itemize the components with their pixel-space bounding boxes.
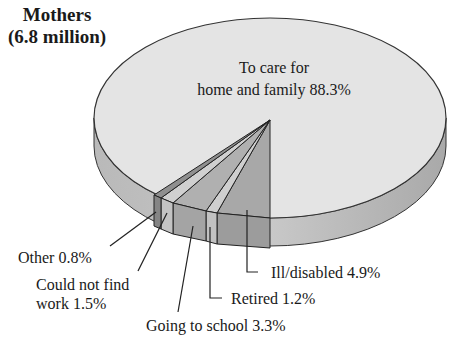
label-going-to-school: Going to school 3.3% [146,316,286,335]
label-retired: Retired 1.2% [231,289,315,308]
leader-school [178,226,193,312]
label-could-not-find-work: Could not find work 1.5% [36,275,129,313]
leader-other [110,212,156,246]
label-home-family: To care for home and family 88.3% [150,57,398,101]
label-home-family-line2: home and family 88.3% [150,79,398,101]
label-home-family-line1: To care for [150,57,398,79]
label-work-line2: work 1.5% [36,294,129,313]
label-work-line1: Could not find [36,275,129,294]
label-ill-disabled: Ill/disabled 4.9% [271,263,380,282]
label-other: Other 0.8% [18,248,92,267]
